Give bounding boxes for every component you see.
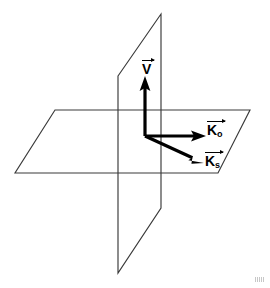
vector-arrow-overbar-ks bbox=[205, 152, 223, 153]
incident-wave-vector-label-text: Ko bbox=[207, 123, 225, 139]
vector-arrow-overbar-ko bbox=[207, 121, 225, 122]
scattered-wave-vector-label-base: K bbox=[205, 153, 215, 169]
scattered-wave-vector-label-subscript: s bbox=[215, 160, 220, 170]
vector-diagram-svg bbox=[0, 0, 270, 288]
velocity-vector-label: V bbox=[142, 60, 154, 76]
scattered-wave-vector-label: Ks bbox=[205, 152, 223, 170]
incident-wave-vector-label-base: K bbox=[207, 122, 217, 138]
scattered-wave-vector-shaft bbox=[145, 136, 192, 158]
vertical-plane bbox=[118, 14, 161, 273]
scan-artifact-mark bbox=[255, 277, 264, 282]
scattered-wave-vector-label-text: Ks bbox=[205, 154, 223, 170]
figure-canvas: V Ko Ks bbox=[0, 0, 270, 288]
velocity-vector-label-text: V bbox=[142, 62, 154, 76]
incident-wave-vector-label-subscript: o bbox=[217, 129, 222, 139]
vector-arrow-overbar-v bbox=[142, 60, 154, 61]
incident-wave-vector-label: Ko bbox=[207, 121, 225, 139]
